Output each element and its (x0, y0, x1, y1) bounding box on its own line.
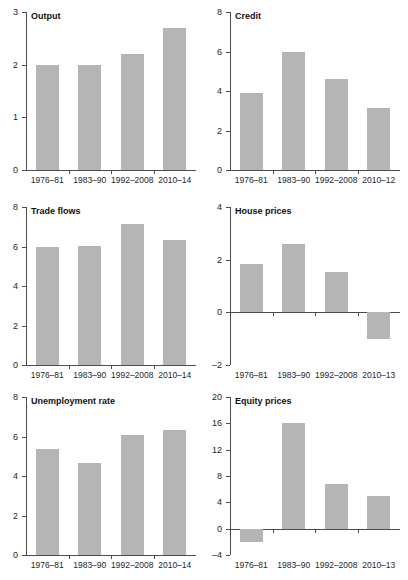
x-axis-tick (69, 170, 70, 174)
bar (325, 272, 348, 313)
y-axis-tick (22, 365, 26, 366)
y-axis-tick (22, 207, 26, 208)
chart-panel: 024681976–811983–901992–20082010–14Trade… (0, 195, 204, 390)
y-axis-tick-label: 8 (200, 472, 222, 481)
y-axis-tick (226, 555, 230, 556)
y-axis-tick (226, 529, 230, 530)
y-axis-tick-label: 0 (200, 525, 222, 534)
x-axis-tick-label: 2010–14 (145, 371, 205, 380)
y-axis-tick-label: 6 (0, 433, 18, 442)
x-axis-tick-label: 2010–13 (349, 561, 408, 570)
bar (367, 108, 390, 170)
x-axis-tick (111, 365, 112, 369)
y-axis-tick (22, 326, 26, 327)
y-axis-tick-label: 2 (0, 512, 18, 521)
x-axis-tick-label: 2010–14 (145, 176, 205, 185)
y-axis-line (26, 12, 27, 170)
y-axis-tick-label: 0 (0, 166, 18, 175)
x-axis-tick (154, 555, 155, 559)
x-axis-tick (111, 170, 112, 174)
y-axis-tick-label: 4 (200, 87, 222, 96)
x-axis-tick-label: 2010–13 (349, 371, 408, 380)
y-axis-tick (22, 12, 26, 13)
x-axis-tick (315, 529, 316, 533)
y-axis-tick (226, 12, 230, 13)
y-axis-tick-label: 0 (0, 361, 18, 370)
y-axis-tick-label: 2 (0, 61, 18, 70)
y-axis-tick (226, 170, 230, 171)
y-axis-tick-label: 0 (200, 308, 222, 317)
bar (240, 93, 263, 170)
x-axis-tick (358, 529, 359, 533)
y-axis-tick (22, 555, 26, 556)
panel-title: Trade flows (31, 206, 81, 216)
x-axis-tick-label: 2010–14 (145, 561, 205, 570)
y-axis-tick-label: 8 (0, 203, 18, 212)
y-axis-tick-label: 8 (200, 8, 222, 17)
bar (121, 54, 144, 170)
x-axis-tick-label: 2010–12 (349, 176, 408, 185)
bar (163, 240, 186, 365)
y-axis-tick-label: 0 (0, 551, 18, 560)
y-axis-tick-label: 4 (0, 472, 18, 481)
y-axis-tick (22, 247, 26, 248)
bar (367, 312, 390, 338)
bar (78, 65, 101, 170)
panel-title: House prices (235, 206, 292, 216)
y-axis-tick (226, 91, 230, 92)
y-axis-tick (226, 476, 230, 477)
x-axis-tick (111, 555, 112, 559)
y-axis-tick (226, 52, 230, 53)
panel-title: Unemployment rate (31, 396, 115, 406)
y-axis-line (230, 12, 231, 170)
y-axis-tick-label: –2 (200, 361, 222, 370)
y-axis-tick (22, 516, 26, 517)
bar (240, 264, 263, 313)
bar (121, 435, 144, 555)
y-axis-tick-label: 4 (0, 282, 18, 291)
y-axis-tick (226, 260, 230, 261)
y-axis-tick (226, 423, 230, 424)
y-axis-tick (22, 476, 26, 477)
chart-panel: –20241976–811983–901992–20082010–13House… (204, 195, 408, 390)
y-axis-tick-label: 6 (0, 243, 18, 252)
y-axis-tick (226, 131, 230, 132)
bar (240, 529, 263, 542)
y-axis-tick (22, 117, 26, 118)
panel-title: Output (31, 11, 61, 21)
x-axis-tick (358, 312, 359, 316)
x-axis-tick (69, 555, 70, 559)
chart-panel: 01231976–811983–901992–20082010–14Output (0, 0, 204, 195)
bar (78, 246, 101, 365)
y-axis-line (26, 207, 27, 365)
bar (78, 463, 101, 555)
bar (325, 484, 348, 529)
panel-title: Credit (235, 11, 261, 21)
x-axis-tick (69, 365, 70, 369)
y-axis-tick-label: 8 (0, 393, 18, 402)
y-axis-tick-label: 12 (200, 446, 222, 455)
x-axis-tick (315, 170, 316, 174)
chart-panel: 024681976–811983–901992–20082010–14Unemp… (0, 385, 204, 580)
x-axis-tick (154, 170, 155, 174)
chart-panel: 024681976–811983–901992–20082010–12Credi… (204, 0, 408, 195)
bar (325, 79, 348, 170)
y-axis-tick (226, 397, 230, 398)
y-axis-tick (22, 170, 26, 171)
y-axis-tick (226, 502, 230, 503)
y-axis-tick-label: 16 (200, 419, 222, 428)
bar (282, 244, 305, 312)
y-axis-line (26, 397, 27, 555)
chart-figure: 01231976–811983–901992–20082010–14Output… (0, 0, 408, 580)
bar (121, 224, 144, 365)
panel-title: Equity prices (235, 396, 292, 406)
y-axis-tick-label: 4 (200, 498, 222, 507)
x-axis-tick (273, 312, 274, 316)
y-axis-tick-label: 20 (200, 393, 222, 402)
y-axis-tick-label: 6 (200, 48, 222, 57)
bar (36, 65, 59, 170)
bar (36, 247, 59, 365)
y-axis-tick-label: 4 (200, 203, 222, 212)
x-axis-tick (273, 170, 274, 174)
bar (367, 496, 390, 529)
